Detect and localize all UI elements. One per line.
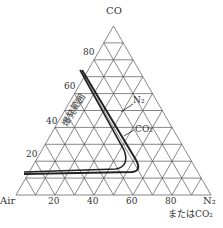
n2-curve-label: N₂ (133, 95, 145, 105)
left-tick-60: 60 (64, 81, 76, 91)
vertex-co2-label: またはCO₂ (168, 209, 213, 219)
bottom-tick-40: 40 (87, 196, 99, 206)
bottom-tick-20: 20 (48, 196, 60, 206)
left-tick-80: 80 (83, 47, 95, 57)
left-tick-40: 40 (46, 116, 58, 126)
vertex-co-label: CO (106, 5, 122, 16)
vertex-air-label: Air (0, 195, 15, 206)
bottom-tick-80: 80 (165, 196, 177, 206)
bottom-tick-60: 60 (126, 196, 138, 206)
vertex-n2-label: N₂ (203, 195, 216, 206)
co2-leader-line (124, 130, 134, 136)
ternary-diagram: CO Air N₂ またはCO₂ 80 60 40 20 20 40 60 80… (0, 0, 223, 228)
left-tick-20: 20 (26, 149, 38, 159)
curve-n2 (24, 70, 138, 174)
co2-curve-label: CO₂ (135, 124, 153, 134)
